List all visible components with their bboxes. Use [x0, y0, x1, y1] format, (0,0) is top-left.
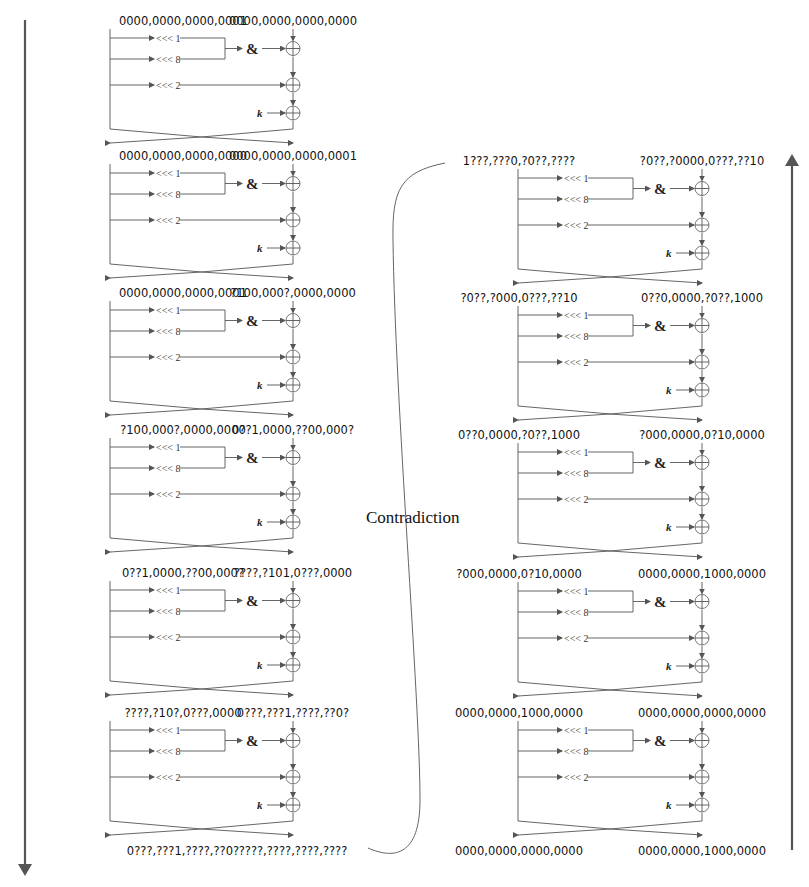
rotate-left-2-label: <<< 2 [156, 215, 180, 226]
xor-icon [695, 659, 709, 673]
rotate-left-1-label: <<< 1 [156, 33, 180, 44]
xor-icon [286, 213, 300, 227]
xor-icon [286, 241, 300, 255]
rotate-left-2-label: <<< 2 [564, 494, 588, 505]
xor-icon [286, 594, 300, 608]
and-operator-label: & [246, 733, 259, 749]
xor-icon [286, 630, 300, 644]
and-operator-label: & [654, 318, 667, 334]
xor-icon [286, 734, 300, 748]
round-key-label: k [666, 799, 672, 811]
round-key-label: k [257, 799, 263, 811]
rotate-left-1-label: <<< 1 [156, 725, 180, 736]
left-state-value: ????,?10?,0???,0000 [124, 706, 241, 720]
xor-icon [286, 798, 300, 812]
left-state-value: 0000,0000,0000,0001 [119, 286, 247, 300]
and-operator-label: & [654, 181, 667, 197]
round-key-label: k [257, 379, 263, 391]
right-state-value: 0??1,0000,??00,000? [232, 423, 354, 437]
right-state-value: 0000,0000,0000,0000 [638, 706, 766, 720]
xor-icon [695, 492, 709, 506]
and-operator-label: & [654, 455, 667, 471]
left-state-value: 0???,???1,????,??0? [127, 844, 239, 858]
xor-icon [695, 319, 709, 333]
xor-icon [695, 355, 709, 369]
xor-icon [695, 218, 709, 232]
rotate-left-1-label: <<< 1 [156, 305, 180, 316]
rotate-left-8-label: <<< 8 [564, 331, 588, 342]
right-state-value: 0000,0000,0000,0000 [229, 14, 357, 28]
rotate-left-1-label: <<< 1 [156, 442, 180, 453]
rotate-left-8-label: <<< 8 [156, 746, 180, 757]
rotate-left-8-label: <<< 8 [564, 607, 588, 618]
xor-icon [695, 734, 709, 748]
rotate-left-2-label: <<< 2 [156, 489, 180, 500]
feistel-round: <<< 1<<< 8&<<< 2k [110, 438, 300, 552]
rotate-left-8-label: <<< 8 [156, 189, 180, 200]
xor-icon [695, 595, 709, 609]
xor-icon [286, 314, 300, 328]
rotate-left-2-label: <<< 2 [156, 352, 180, 363]
xor-icon [695, 798, 709, 812]
feistel-round: <<< 1<<< 8&<<< 2k [518, 443, 709, 557]
xor-icon [286, 350, 300, 364]
left-state-value: 0000,0000,0000,0000 [119, 149, 247, 163]
rotate-left-2-label: <<< 2 [564, 220, 588, 231]
left-state-value: 0000,0000,0000,0001 [119, 14, 247, 28]
left-state-value: 0000,0000,0000,0000 [455, 844, 583, 858]
and-operator-label: & [654, 733, 667, 749]
contradiction-label: Contradiction [366, 508, 460, 527]
feistel-round: <<< 1<<< 8&<<< 2k [518, 306, 709, 420]
rotate-left-2-label: <<< 2 [564, 633, 588, 644]
xor-icon [286, 515, 300, 529]
round-key-label: k [666, 521, 672, 533]
feistel-round: <<< 1<<< 8&<<< 2k [110, 29, 300, 143]
right-state-value: ????,?101,0???,0000 [234, 566, 352, 580]
rotate-left-2-label: <<< 2 [156, 80, 180, 91]
rotate-left-2-label: <<< 2 [156, 772, 180, 783]
round-key-label: k [666, 247, 672, 259]
and-operator-label: & [246, 313, 259, 329]
left-state-value: 0??1,0000,??00,000? [122, 566, 244, 580]
rotate-left-8-label: <<< 8 [156, 606, 180, 617]
xor-icon [695, 456, 709, 470]
right-state-value: 0??0,0000,?0??,1000 [641, 291, 763, 305]
round-key-label: k [257, 516, 263, 528]
feistel-round: <<< 1<<< 8&<<< 2k [518, 582, 709, 696]
feistel-round: <<< 1<<< 8&<<< 2k [110, 164, 300, 278]
rotate-left-1-label: <<< 1 [564, 725, 588, 736]
xor-icon [695, 631, 709, 645]
rotate-left-1-label: <<< 1 [564, 173, 588, 184]
rotate-left-1-label: <<< 1 [156, 168, 180, 179]
xor-icon [286, 78, 300, 92]
rotate-left-2-label: <<< 2 [564, 772, 588, 783]
round-key-label: k [666, 384, 672, 396]
xor-icon [286, 770, 300, 784]
xor-icon [286, 106, 300, 120]
feistel-round: <<< 1<<< 8&<<< 2k [110, 721, 300, 835]
feistel-round: <<< 1<<< 8&<<< 2k [518, 169, 709, 283]
rotate-left-2-label: <<< 2 [156, 632, 180, 643]
and-operator-label: & [246, 41, 259, 57]
rotate-left-8-label: <<< 8 [156, 463, 180, 474]
rotate-left-8-label: <<< 8 [156, 54, 180, 65]
xor-icon [695, 520, 709, 534]
right-state-value: ?000,0000,0?10,0000 [639, 428, 765, 442]
and-operator-label: & [246, 176, 259, 192]
right-state-value: 0000,0000,1000,0000 [638, 844, 766, 858]
round-key-label: k [257, 107, 263, 119]
xor-icon [286, 42, 300, 56]
rotate-left-8-label: <<< 8 [564, 468, 588, 479]
and-operator-label: & [246, 593, 259, 609]
feistel-round: <<< 1<<< 8&<<< 2k [110, 301, 300, 415]
left-state-value: 0??0,0000,?0??,1000 [458, 428, 580, 442]
left-state-value: 1???,???0,?0??,???? [463, 154, 575, 168]
feistel-round: <<< 1<<< 8&<<< 2k [518, 721, 709, 835]
rotate-left-1-label: <<< 1 [564, 586, 588, 597]
and-operator-label: & [246, 450, 259, 466]
right-state-value: 0???,???1,????,??0? [237, 706, 349, 720]
round-key-label: k [257, 659, 263, 671]
rotate-left-8-label: <<< 8 [564, 194, 588, 205]
left-state-value: ?0??,?000,0???,??10 [460, 291, 577, 305]
xor-icon [286, 177, 300, 191]
